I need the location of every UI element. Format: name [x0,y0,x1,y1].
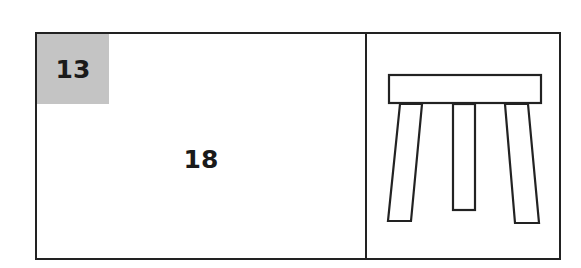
picture-panel [367,34,561,258]
item-value: 18 [37,145,365,174]
item-number: 13 [56,55,91,84]
item-card: 13 18 [35,32,561,260]
stool-icon [367,34,561,258]
item-number-badge: 13 [37,34,109,104]
